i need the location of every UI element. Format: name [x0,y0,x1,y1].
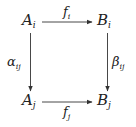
node-b-j-base: B [97,91,108,109]
label-alpha-ij: αij [7,55,21,68]
node-b-i-sub: i [108,20,111,30]
node-a-j-sub: j [33,100,36,110]
node-b-i: Bi [97,13,111,28]
node-b-i-base: B [97,11,108,29]
label-beta-ij-base: β [112,54,120,69]
node-a-j-base: A [22,91,33,109]
label-alpha-ij-base: α [7,54,16,69]
label-beta-ij-sub: ij [120,62,125,71]
label-f-i: fi [63,5,70,18]
label-f-j-sub: j [68,112,70,121]
label-f-i-sub: i [68,12,71,21]
node-a-j: Aj [22,93,36,108]
node-b-j-sub: j [108,100,111,110]
label-alpha-ij-sub: ij [16,62,21,71]
node-a-i: Ai [22,13,36,28]
node-b-j: Bj [97,93,111,108]
commutative-diagram: Ai Bi Aj Bj fi fj αij βij [0,0,136,127]
node-a-i-sub: i [33,20,36,30]
node-a-i-base: A [22,11,33,29]
label-beta-ij: βij [112,55,125,68]
label-f-j: fj [63,105,70,118]
